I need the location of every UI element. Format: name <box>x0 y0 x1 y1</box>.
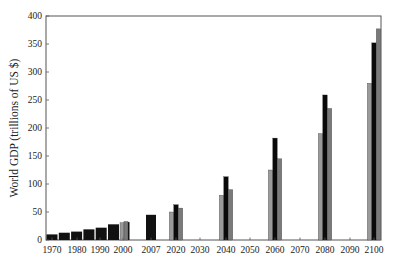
x-tick-label: 2000 <box>114 245 133 255</box>
x-tick-label: 2030 <box>191 245 210 255</box>
y-tick-label: 0 <box>37 235 42 245</box>
y-tick-label: 300 <box>28 67 43 77</box>
y-tick-label: 350 <box>28 39 43 49</box>
x-tick-label: 2050 <box>241 245 260 255</box>
bar-a-2080 <box>318 134 323 240</box>
bar-a-2000 <box>120 223 124 240</box>
bar-historical-1995 <box>108 224 119 240</box>
x-tick-label: 2007 <box>142 245 161 255</box>
bars <box>47 29 381 240</box>
bar-c-2020 <box>178 208 183 240</box>
x-tick-label: 1990 <box>91 245 110 255</box>
x-tick-label: 2040 <box>217 245 236 255</box>
bar-historical-1985 <box>83 229 94 240</box>
x-tick-label: 2020 <box>167 245 186 255</box>
world-gdp-bar-chart: 050100150200250300350400 197019801990200… <box>0 0 396 265</box>
y-axis-title: World GDP (trillions of US $) <box>8 58 21 197</box>
bar-a-2060 <box>268 170 273 240</box>
y-tick-label: 250 <box>28 95 43 105</box>
bar-c-2060 <box>277 159 282 240</box>
y-tick-label: 150 <box>28 151 43 161</box>
bar-historical-1975 <box>59 233 70 240</box>
bar-b-2040 <box>224 177 229 240</box>
x-tick-label: 2080 <box>316 245 335 255</box>
x-tick-label: 2100 <box>365 245 384 255</box>
bar-historical-1990 <box>96 228 107 240</box>
y-tick-label: 200 <box>28 123 43 133</box>
bar-historical-2007 <box>146 215 156 240</box>
bar-b-2080 <box>323 95 328 240</box>
x-tick-label: 2070 <box>291 245 310 255</box>
bar-c-2080 <box>327 108 332 240</box>
y-tick-label: 400 <box>28 11 43 21</box>
bar-b-2100 <box>372 43 377 240</box>
bar-a-2040 <box>219 195 224 240</box>
x-tick-label: 1980 <box>68 245 87 255</box>
bar-b-2060 <box>273 138 278 240</box>
y-tick-label: 50 <box>33 207 43 217</box>
bar-c-2100 <box>376 29 381 240</box>
bar-a-2020 <box>169 212 174 240</box>
x-tick-label: 2060 <box>266 245 285 255</box>
bar-c-2040 <box>228 190 233 240</box>
bar-a-2100 <box>367 83 372 240</box>
x-tick-label: 2090 <box>341 245 360 255</box>
bar-c-2000 <box>124 222 128 240</box>
bar-b-2020 <box>174 205 179 240</box>
y-tick-label: 100 <box>28 179 43 189</box>
x-tick-label: 1970 <box>43 245 62 255</box>
